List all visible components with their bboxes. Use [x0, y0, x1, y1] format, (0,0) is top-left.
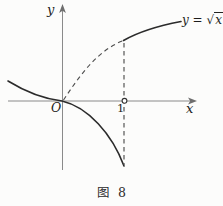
sqrt-curve-dashed-segment	[64, 41, 124, 101]
curve-equation-label: y = √x	[182, 14, 223, 26]
sqrt-sign: √	[206, 13, 214, 27]
figure-caption: 图 8	[0, 182, 223, 201]
curve-through-origin	[8, 81, 124, 166]
sqrt-radicand: x	[214, 12, 223, 27]
curve-equation-prefix: y =	[182, 13, 206, 27]
origin-label: O	[51, 102, 61, 115]
x-axis-label: x	[186, 102, 193, 115]
figure-8: y x O 1 y = √x 图 8	[0, 0, 223, 206]
sqrt-curve-solid-segment	[124, 22, 182, 41]
x-tick-1-label: 1	[117, 103, 124, 115]
y-axis-label: y	[47, 3, 54, 16]
